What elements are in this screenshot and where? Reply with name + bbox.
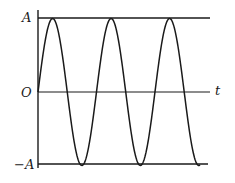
graph-canvas bbox=[0, 0, 235, 183]
label-time-axis: t bbox=[215, 84, 220, 97]
label-amplitude-top: A bbox=[22, 11, 31, 24]
label-amplitude-bottom: −A bbox=[14, 158, 34, 171]
sine-wave-diagram: A O −A t bbox=[0, 0, 235, 183]
label-origin: O bbox=[21, 86, 32, 99]
